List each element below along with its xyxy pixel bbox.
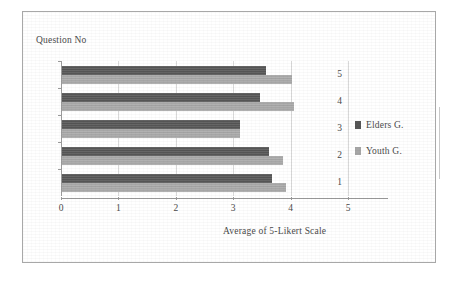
bar-elders-g-q5	[62, 66, 266, 75]
x-tick-mark	[118, 197, 119, 200]
plot-area: 54321	[61, 61, 348, 196]
chart-legend: Elders G.Youth G.	[355, 120, 430, 172]
y-tick-label: 2	[322, 150, 342, 160]
y-axis-title: Question No	[36, 35, 87, 45]
legend-label: Elders G.	[366, 120, 404, 130]
x-tick-mark	[291, 197, 292, 200]
bar-group	[62, 174, 348, 194]
x-tick-label: 1	[116, 203, 121, 213]
y-tick-label: 1	[322, 177, 342, 187]
x-tick-label: 2	[173, 203, 178, 213]
bar-group	[62, 120, 348, 140]
bar-youth-g-q4	[62, 102, 294, 111]
x-axis-ticks: 012345	[61, 197, 348, 219]
legend-item: Youth G.	[355, 146, 430, 156]
bar-elders-g-q1	[62, 174, 272, 183]
x-axis-title: Average of 5-Likert Scale	[223, 226, 326, 236]
legend-swatch-icon	[355, 121, 361, 129]
y-tick-mark	[58, 142, 61, 143]
gridline	[348, 61, 349, 196]
legend-item: Elders G.	[355, 120, 430, 130]
x-tick-label: 0	[59, 203, 64, 213]
y-tick-mark	[58, 169, 61, 170]
bar-elders-g-q4	[62, 93, 260, 102]
bar-youth-g-q5	[62, 75, 292, 84]
x-tick-label: 5	[346, 203, 351, 213]
bar-youth-g-q2	[62, 156, 283, 165]
y-tick-label: 3	[322, 123, 342, 133]
x-tick-mark	[176, 197, 177, 200]
y-tick-label: 4	[322, 96, 342, 106]
bar-youth-g-q3	[62, 129, 240, 138]
bar-group	[62, 93, 348, 113]
chart-figure-frame: Question No 54321 012345 Average of 5-Li…	[22, 11, 436, 263]
bar-youth-g-q1	[62, 183, 286, 192]
bar-elders-g-q3	[62, 120, 240, 129]
x-tick-label: 3	[231, 203, 236, 213]
y-tick-mark	[58, 88, 61, 89]
bar-group	[62, 147, 348, 167]
legend-divider	[439, 107, 440, 179]
x-tick-mark	[348, 197, 349, 200]
legend-swatch-icon	[355, 147, 361, 155]
x-tick-mark	[233, 197, 234, 200]
x-tick-label: 4	[288, 203, 293, 213]
x-tick-mark	[61, 197, 62, 200]
bar-elders-g-q2	[62, 147, 269, 156]
bar-group	[62, 66, 348, 86]
legend-label: Youth G.	[366, 146, 402, 156]
y-tick-mark	[58, 115, 61, 116]
y-tick-mark	[58, 61, 61, 62]
y-tick-label: 5	[322, 69, 342, 79]
